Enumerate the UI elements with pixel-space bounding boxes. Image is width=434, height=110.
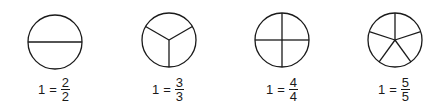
divider-line bbox=[369, 32, 395, 40]
equals-sign: = bbox=[389, 82, 397, 97]
divider-line bbox=[395, 40, 411, 62]
equals-sign: = bbox=[277, 82, 285, 97]
fraction-label-fifths: 1 = 5 5 bbox=[378, 76, 410, 103]
whole-number: 1 bbox=[152, 82, 159, 97]
whole-number: 1 bbox=[378, 82, 385, 97]
fraction-label-fourths: 1 = 4 4 bbox=[266, 76, 298, 103]
whole-number: 1 bbox=[266, 82, 273, 97]
denominator: 3 bbox=[175, 90, 184, 103]
numerator: 5 bbox=[401, 76, 410, 90]
equals-sign: = bbox=[163, 82, 171, 97]
whole-number: 1 bbox=[38, 82, 45, 97]
fraction-label-halves: 1 = 2 2 bbox=[38, 76, 70, 103]
numerator: 2 bbox=[61, 76, 70, 90]
divider-line bbox=[146, 27, 169, 41]
fraction: 5 5 bbox=[401, 76, 410, 103]
fraction: 2 2 bbox=[61, 76, 70, 103]
fraction: 3 3 bbox=[175, 76, 184, 103]
divider-line bbox=[169, 27, 192, 41]
equals-sign: = bbox=[49, 82, 57, 97]
divider-line bbox=[395, 32, 421, 40]
denominator: 4 bbox=[289, 90, 298, 103]
denominator: 2 bbox=[61, 90, 70, 103]
numerator: 3 bbox=[175, 76, 184, 90]
numerator: 4 bbox=[289, 76, 298, 90]
fraction-label-thirds: 1 = 3 3 bbox=[152, 76, 184, 103]
divider-line bbox=[379, 40, 395, 62]
fraction: 4 4 bbox=[289, 76, 298, 103]
denominator: 5 bbox=[401, 90, 410, 103]
